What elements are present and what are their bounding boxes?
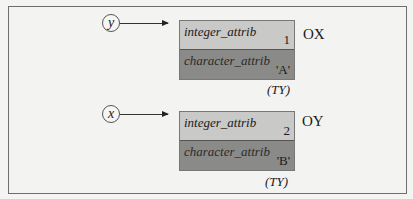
reference-circle-x: x — [102, 105, 120, 123]
attribute-value: 2 — [284, 123, 291, 139]
attribute-value: 1 — [284, 32, 291, 48]
attribute-name: integer_attrib — [184, 115, 256, 131]
object-id-label: OY — [302, 113, 324, 130]
attribute-row-character: character_attrib 'B' — [180, 141, 294, 170]
type-label: (TY) — [265, 174, 288, 190]
pointer-arrow-x — [120, 114, 168, 115]
object-id-label: OX — [303, 26, 325, 43]
type-label: (TY) — [267, 82, 290, 98]
attribute-row-integer: integer_attrib 1 — [180, 21, 294, 50]
attribute-value: 'A' — [276, 62, 290, 78]
object-box-ox: integer_attrib 1 character_attrib 'A' — [179, 20, 295, 80]
object-box-oy: integer_attrib 2 character_attrib 'B' — [179, 111, 295, 171]
pointer-arrow-y — [120, 23, 168, 24]
attribute-name: character_attrib — [184, 53, 270, 69]
attribute-value: 'B' — [277, 153, 290, 169]
attribute-name: integer_attrib — [184, 24, 256, 40]
attribute-name: character_attrib — [184, 144, 270, 160]
attribute-row-character: character_attrib 'A' — [180, 50, 294, 79]
attribute-row-integer: integer_attrib 2 — [180, 112, 294, 141]
reference-circle-y: y — [102, 14, 120, 32]
